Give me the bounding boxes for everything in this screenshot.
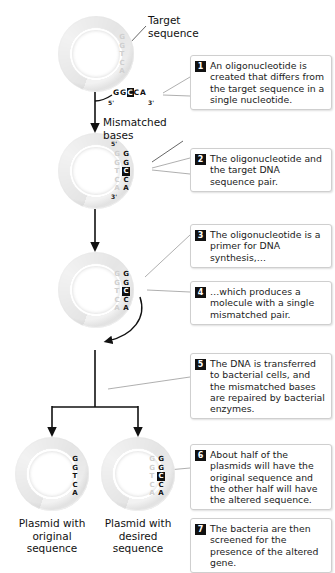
desired-suffix: CA	[157, 481, 165, 498]
callout-step-6-number: 6	[195, 450, 206, 461]
label-plasmid-original: Plasmid with original sequence	[4, 517, 100, 555]
callout-step-7: 7 The bacteria are then screened for the…	[190, 518, 332, 573]
plasmid-annealed-template-sequence: GGTCA	[113, 150, 120, 193]
annealed-three-prime-tick: 3'	[111, 193, 117, 200]
desired-mutant-base: C	[157, 472, 165, 481]
callout-step-5-number: 5	[195, 359, 206, 370]
leader-callout-3	[145, 235, 190, 277]
oligonucleotide-sequence: GGCCA	[113, 88, 147, 97]
oligo-five-prime-tick: 5'	[108, 99, 114, 106]
callout-step-6: 6 About half of the plasmids will have t…	[190, 444, 332, 510]
plasmid-original-sequence: GGTCA	[71, 455, 78, 498]
label-mismatched-bases: Mismatched bases	[103, 116, 167, 141]
callout-step-3: 3 The oligonucleotide is a primer for DN…	[190, 224, 332, 268]
annealed-oligo-mutant-base: C	[122, 167, 130, 176]
plasmid-synthesis-oligo-sequence: GGCCA	[122, 270, 129, 313]
plasmid-annealed-oligo-sequence: GGCCA	[122, 150, 129, 193]
label-plasmid-original-line2: original	[4, 530, 100, 543]
label-mismatched-bases-line2: bases	[103, 129, 167, 142]
label-target-sequence-line2: sequence	[148, 27, 199, 40]
callout-step-2: 2 The oligonucleotide and the target DNA…	[190, 148, 332, 192]
callout-step-6-text: About half of the plasmids will have the…	[210, 449, 326, 505]
leader-callout-1a	[163, 77, 190, 93]
callout-step-4: 4 …which produces a molecule with a sing…	[190, 281, 332, 325]
label-mismatched-bases-line1: Mismatched	[103, 116, 167, 129]
leader-callout-1b	[163, 95, 190, 96]
oligo-three-prime-tick: 3'	[148, 99, 154, 106]
plasmid-target-sequence: GGTCA	[118, 33, 125, 76]
callout-step-1: 1 An oligonucleotide is created that dif…	[190, 55, 332, 110]
annealed-oligo-suffix: CA	[122, 176, 130, 193]
callout-step-1-text: An oligonucleotide is created that diffe…	[210, 60, 326, 105]
oligo-prefix: GG	[113, 88, 127, 97]
desired-prefix: GG	[157, 455, 165, 472]
label-plasmid-desired-line3: sequence	[90, 542, 186, 555]
callout-step-2-text: The oligonucleotide and the target DNA s…	[210, 153, 326, 187]
plasmid-desired-template-sequence: GGTCA	[148, 455, 155, 498]
leader-callout-2b	[152, 170, 190, 174]
callout-step-5: 5 The DNA is transferred to bacterial ce…	[190, 353, 332, 419]
callout-step-7-number: 7	[195, 524, 206, 535]
callout-step-5-text: The DNA is transferred to bacterial cell…	[210, 358, 326, 414]
label-plasmid-original-line1: Plasmid with	[4, 517, 100, 530]
callout-step-2-number: 2	[195, 154, 206, 165]
label-plasmid-desired: Plasmid with desired sequence	[90, 517, 186, 555]
callout-step-3-number: 3	[195, 230, 206, 241]
callout-step-4-text: …which produces a molecule with a single…	[210, 286, 326, 320]
leader-callout-2a	[152, 158, 190, 168]
synthesis-oligo-suffix: CA	[122, 296, 130, 313]
callout-step-3-text: The oligonucleotide is a primer for DNA …	[210, 229, 326, 263]
plasmid-synthesis-template-sequence: GGTCA	[113, 270, 120, 313]
oligo-suffix: CA	[134, 88, 147, 97]
label-target-sequence: Target sequence	[148, 14, 199, 39]
label-plasmid-original-line3: sequence	[4, 542, 100, 555]
label-plasmid-desired-line1: Plasmid with	[90, 517, 186, 530]
synthesis-oligo-mutant-base: C	[122, 287, 130, 296]
synthesis-oligo-prefix: GG	[122, 270, 130, 287]
label-target-sequence-line1: Target	[148, 14, 199, 27]
annealed-five-prime-tick: 5'	[111, 140, 117, 147]
leader-mismatched-bases	[152, 141, 183, 162]
callout-step-1-number: 1	[195, 61, 206, 72]
plasmid-desired-sequence: GGCCA	[157, 455, 164, 498]
leader-callout-5	[108, 377, 190, 389]
callout-step-7-text: The bacteria are then screened for the p…	[210, 523, 326, 568]
leader-callout-4	[147, 290, 190, 292]
callout-step-4-number: 4	[195, 287, 206, 298]
label-plasmid-desired-line2: desired	[90, 530, 186, 543]
annealed-oligo-prefix: GG	[122, 150, 130, 167]
